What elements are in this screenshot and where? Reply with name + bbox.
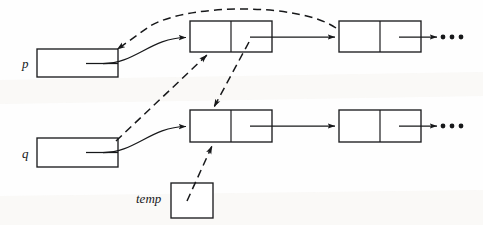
bottom-ellipsis-dot-3 (459, 124, 464, 129)
linked-list-diagram: p q temp (0, 0, 483, 225)
top-ellipsis (441, 35, 464, 40)
bottom-ellipsis (441, 124, 464, 129)
bottom-ellipsis-dot-2 (450, 124, 455, 129)
bottom-ellipsis-dot-1 (441, 124, 446, 129)
variable-q-label: q (22, 146, 29, 161)
variable-temp-label: temp (136, 191, 162, 206)
diagram-canvas: p q temp (0, 0, 483, 225)
top-ellipsis-dot-2 (450, 35, 455, 40)
top-ellipsis-dot-1 (441, 35, 446, 40)
variable-p-label: p (21, 56, 29, 71)
top-ellipsis-dot-3 (459, 35, 464, 40)
